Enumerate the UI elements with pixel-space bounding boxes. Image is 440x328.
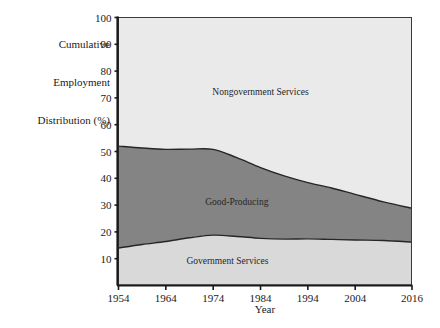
area-label-nongovernment-services: Nongovernment Services bbox=[212, 87, 309, 97]
area-label-government-services: Government Services bbox=[186, 256, 268, 266]
y-tick-label: 50 bbox=[101, 146, 113, 158]
y-tick-label: 80 bbox=[101, 65, 113, 77]
area-bands bbox=[119, 18, 413, 286]
y-tick-label: 60 bbox=[101, 119, 113, 131]
x-tick-label: 2016 bbox=[401, 292, 424, 304]
y-tick-label: 20 bbox=[101, 226, 113, 238]
x-tick-label: 1984 bbox=[250, 292, 273, 304]
y-tick-label: 100 bbox=[95, 12, 112, 24]
y-axis-ticks: 102030405060708090100 bbox=[95, 12, 119, 265]
x-tick-label: 2004 bbox=[344, 292, 367, 304]
y-tick-label: 40 bbox=[101, 172, 113, 184]
y-tick-label: 10 bbox=[101, 253, 113, 265]
x-tick-label: 1964 bbox=[155, 292, 178, 304]
y-tick-label: 30 bbox=[101, 199, 113, 211]
x-axis-title: Year bbox=[118, 303, 412, 315]
area-label-good-producing: Good-Producing bbox=[205, 197, 269, 207]
x-axis-ticks: 1954196419741984199420042016 bbox=[108, 286, 424, 304]
y-tick-label: 70 bbox=[101, 92, 113, 104]
x-tick-label: 1974 bbox=[202, 292, 225, 304]
chart-figure: Cumulative Employment Distribution (%) 1… bbox=[0, 0, 440, 328]
y-tick-label: 90 bbox=[101, 38, 113, 50]
x-tick-label: 1954 bbox=[108, 292, 131, 304]
stacked-area-plot: 102030405060708090100 195419641974198419… bbox=[0, 0, 440, 328]
x-tick-label: 1994 bbox=[297, 292, 320, 304]
